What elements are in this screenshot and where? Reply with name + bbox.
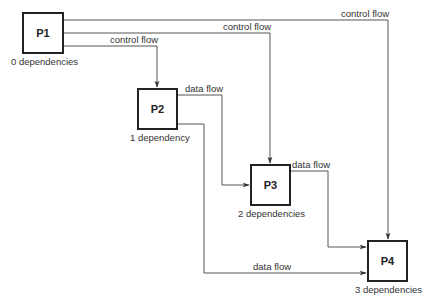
edge-label-p1-p3: control flow [223, 21, 271, 32]
edge-label-p2-p4: data flow [253, 261, 291, 272]
node-p1-dependencies: 0 dependencies [11, 56, 78, 67]
node-p2: P2 [137, 88, 178, 130]
edge-label-p1-p4: control flow [341, 8, 389, 19]
node-p2-label: P2 [151, 103, 164, 115]
node-p3-dependencies: 2 dependencies [238, 208, 305, 219]
node-p3-label: P3 [264, 179, 277, 191]
node-p1: P1 [22, 12, 64, 54]
node-p2-dependencies: 1 dependency [130, 132, 190, 143]
node-p4-label: P4 [381, 255, 394, 267]
node-p1-label: P1 [36, 27, 49, 39]
edge-label-p2-p3: data flow [185, 83, 223, 94]
edge-p1-p4 [63, 20, 388, 239]
node-p4-dependencies: 3 dependencies [355, 284, 422, 295]
edge-label-p3-p4: data flow [292, 159, 330, 170]
node-p3: P3 [250, 164, 291, 206]
node-p4: P4 [367, 240, 408, 282]
edge-label-p1-p2: control flow [110, 34, 158, 45]
